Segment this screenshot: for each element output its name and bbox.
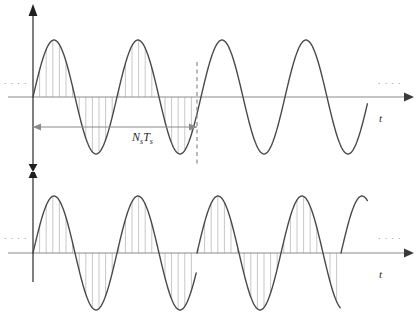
interval-label-T-sub: s <box>150 137 153 146</box>
top-plot-svg <box>0 0 419 172</box>
interval-duration-label: NsTs <box>132 130 153 146</box>
bottom-amplitude-axis-arrowhead <box>29 172 38 178</box>
bottom-right-ellipsis: · · · · <box>378 235 402 242</box>
bottom-plot-svg <box>0 172 419 332</box>
top-amplitude-axis-bottom-tip <box>29 164 38 172</box>
bottom-left-ellipsis: · · · · <box>4 235 28 242</box>
top-time-axis-label: t <box>379 112 382 124</box>
top-time-axis-arrowhead <box>404 93 414 102</box>
top-left-ellipsis: · · · · <box>4 80 28 87</box>
bottom-time-axis-arrowhead <box>404 249 414 258</box>
interval-label-T: T <box>143 130 150 144</box>
bottom-time-axis-label: t <box>379 268 382 280</box>
interval-label-N: N <box>132 130 140 144</box>
top-interval-span-arrow <box>33 124 197 131</box>
top-amplitude-axis-arrowhead <box>29 4 38 16</box>
bottom-waveform-plot: · · · · · · · · t <box>0 172 419 332</box>
top-waveform-plot: · · · · · · · · t NsTs <box>0 0 419 172</box>
top-right-ellipsis: · · · · <box>378 80 402 87</box>
